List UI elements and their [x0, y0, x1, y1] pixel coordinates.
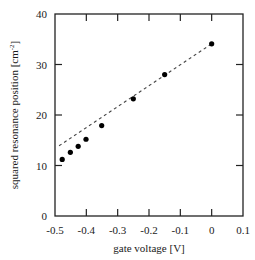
x-tick-label: -0.3: [109, 224, 127, 236]
x-tick-label: -0.4: [78, 224, 96, 236]
x-tick-label: 0.1: [236, 224, 250, 236]
fit-line: [59, 44, 212, 146]
data-point: [99, 123, 104, 128]
y-axis-title-tail: ]: [8, 41, 20, 45]
plot-frame: [55, 14, 243, 216]
data-point: [162, 72, 167, 77]
y-tick-label: 10: [36, 160, 48, 172]
x-tick-label: -0.2: [140, 224, 157, 236]
chart: -0.5-0.4-0.3-0.2-0.100.1 010203040 gate …: [0, 0, 255, 260]
plot-border: [55, 14, 243, 216]
x-tick-label: -0.5: [46, 224, 64, 236]
x-tick-label: 0: [209, 224, 215, 236]
data-point: [131, 96, 136, 101]
data-point: [60, 157, 65, 162]
x-axis-title: gate voltage [V]: [113, 242, 184, 254]
data-point: [83, 137, 88, 142]
data-markers: [60, 41, 215, 162]
y-tick-label: 0: [42, 210, 48, 222]
x-tick-labels: -0.5-0.4-0.3-0.2-0.100.1: [46, 224, 250, 236]
x-tick-label: -0.1: [172, 224, 189, 236]
data-point: [209, 41, 214, 46]
y-axis-title-main: squared resonance position [cm: [8, 50, 20, 189]
data-point: [76, 144, 81, 149]
fit-line-dashed: [59, 44, 212, 146]
y-axis-title: squared resonance position [cm-2]: [8, 41, 20, 190]
data-point: [68, 150, 73, 155]
y-tick-labels: 010203040: [36, 8, 48, 222]
y-tick-label: 20: [36, 109, 48, 121]
axis-ticks: [55, 14, 243, 216]
y-tick-label: 40: [36, 8, 48, 20]
y-tick-label: 30: [36, 59, 48, 71]
